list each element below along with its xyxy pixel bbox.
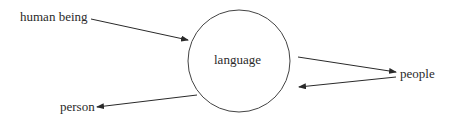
arrow-people-to-language	[299, 77, 396, 87]
arrow-human-being-to-language	[91, 19, 188, 40]
node-person: person	[60, 100, 95, 113]
node-people: people	[400, 67, 435, 80]
arrow-language-to-person	[97, 95, 197, 107]
concept-diagram: human being language people person	[0, 0, 454, 122]
node-language: language	[214, 53, 261, 66]
arrow-language-to-people	[298, 57, 396, 72]
node-human-being: human being	[20, 10, 88, 23]
